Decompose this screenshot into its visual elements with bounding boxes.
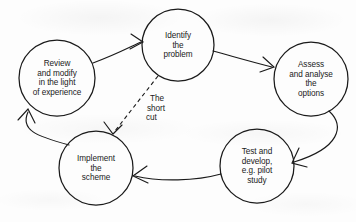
node-circle-implement bbox=[59, 131, 133, 205]
diagram-canvas: Identify the problem Assess and analyse … bbox=[0, 0, 356, 222]
arrow-assess-to-test bbox=[292, 111, 337, 167]
process-cycle-diagram bbox=[0, 0, 356, 222]
arrow-identify-to-assess bbox=[213, 51, 274, 72]
arrow-test-to-implement bbox=[133, 166, 221, 183]
arrow-shortcut-identify-to-implement bbox=[104, 76, 158, 134]
node-circle-review bbox=[19, 40, 95, 116]
node-circle-identify bbox=[142, 9, 214, 81]
node-circle-test bbox=[220, 129, 294, 203]
arrow-review-to-identify bbox=[93, 34, 143, 63]
node-circle-assess bbox=[274, 42, 348, 116]
arrow-implement-to-review bbox=[18, 109, 69, 145]
